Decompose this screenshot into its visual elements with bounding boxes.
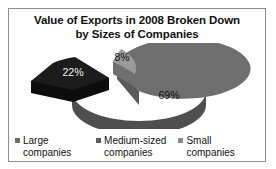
legend-label-large: Large companies [23,135,96,158]
pie-label-large: 69% [158,89,179,101]
legend-swatch-large-icon [15,138,20,143]
legend-label-medium: Medium-sized companies [104,135,178,158]
pie-label-medium: 8% [114,51,129,63]
legend-item-large[interactable]: Large companies [15,135,96,158]
pie-chart-svg: 69% 8% 22% [9,43,265,129]
legend-swatch-small-icon [178,138,183,143]
pie-label-small: 22% [62,66,83,78]
chart-title-line-2: by Sizes of Companies [9,28,265,42]
chart-frame: Value of Exports in 2008 Broken Down by … [8,8,266,162]
chart-title-line-1: Value of Exports in 2008 Broken Down [9,14,265,28]
legend-item-medium[interactable]: Medium-sized companies [96,135,178,158]
chart-title: Value of Exports in 2008 Broken Down by … [9,14,265,41]
chart-legend: Large companies Medium-sized companies S… [9,135,265,158]
pie-slice-small-exploded[interactable]: 22% [31,57,109,102]
legend-label-small: Small companies [186,135,259,158]
legend-item-small[interactable]: Small companies [178,135,259,158]
legend-swatch-medium-icon [96,138,101,143]
pie-chart-plot-area: 69% 8% 22% [9,43,265,129]
